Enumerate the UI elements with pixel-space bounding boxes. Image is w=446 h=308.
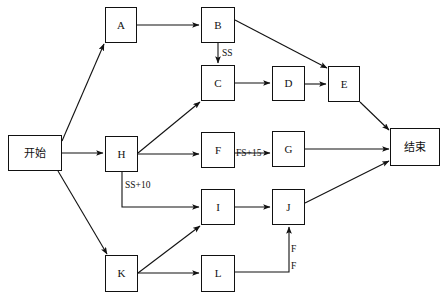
node-label-start: 开始 xyxy=(24,148,47,159)
node-label-L: L xyxy=(215,268,222,279)
edge-label-fs15: FS+15 xyxy=(236,149,261,159)
node-label-C: C xyxy=(214,78,221,89)
edge-label-f-bot: F xyxy=(291,262,296,272)
node-E[interactable]: E xyxy=(328,66,360,102)
node-label-end: 结束 xyxy=(404,142,427,153)
edge-B-E xyxy=(235,20,327,68)
node-label-K: K xyxy=(118,268,126,279)
edge-label-ss: SS xyxy=(222,49,233,59)
node-start[interactable]: 开始 xyxy=(8,135,62,171)
node-label-E: E xyxy=(341,79,348,90)
edge-J-end xyxy=(305,161,389,203)
node-D[interactable]: D xyxy=(272,66,305,101)
node-label-G: G xyxy=(285,144,293,155)
node-G[interactable]: G xyxy=(272,131,305,167)
edge-label-ss10: SS+10 xyxy=(125,181,150,191)
node-F[interactable]: F xyxy=(201,132,235,168)
node-B[interactable]: B xyxy=(201,7,235,43)
node-label-B: B xyxy=(214,20,221,31)
node-C[interactable]: C xyxy=(201,65,235,101)
edge-start-A xyxy=(62,44,104,141)
node-K[interactable]: K xyxy=(105,255,138,292)
node-L[interactable]: L xyxy=(201,255,235,292)
node-label-H: H xyxy=(118,149,126,160)
network-diagram: 开始ABCDEHFGIJKL结束 SSSS+10FS+15FF xyxy=(0,0,446,308)
edge-label-f-top: F xyxy=(291,245,296,255)
node-label-F: F xyxy=(215,145,221,156)
node-H[interactable]: H xyxy=(105,136,138,172)
edge-start-K xyxy=(58,171,107,254)
edge-L-J xyxy=(235,227,289,272)
node-label-D: D xyxy=(285,78,293,89)
node-I[interactable]: I xyxy=(201,189,235,225)
edge-H-C xyxy=(138,102,200,153)
node-label-A: A xyxy=(117,20,125,31)
edge-E-end xyxy=(360,102,389,130)
node-end[interactable]: 结束 xyxy=(390,128,440,166)
node-J[interactable]: J xyxy=(272,189,305,225)
node-label-J: J xyxy=(286,202,290,213)
node-A[interactable]: A xyxy=(105,7,137,43)
edge-K-I xyxy=(138,226,200,273)
node-label-I: I xyxy=(216,202,220,213)
